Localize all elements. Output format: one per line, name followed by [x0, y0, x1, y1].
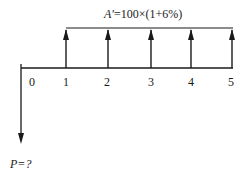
period-label-3: 3	[148, 76, 154, 88]
period-label-5: 5	[228, 76, 234, 88]
annuity-expression: =100×(1+6%)	[114, 7, 182, 21]
period-label-2: 2	[104, 76, 110, 88]
inflow-arrows	[63, 29, 235, 68]
period-label-4: 4	[188, 76, 194, 88]
annuity-label: A'=100×(1+6%)	[104, 8, 182, 20]
period-label-0: 0	[29, 76, 35, 88]
annuity-variable: A'	[104, 7, 114, 21]
period-label-1: 1	[63, 76, 69, 88]
cash-flow-diagram	[0, 0, 251, 181]
present-value-label: P=?	[10, 158, 31, 170]
